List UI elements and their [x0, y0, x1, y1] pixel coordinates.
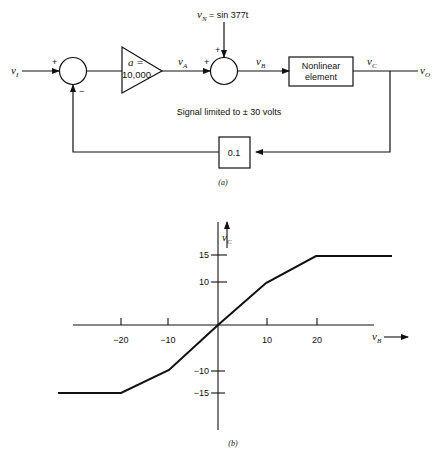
vO-label: vO: [420, 64, 430, 79]
feedback-gain-value: 0.1: [228, 148, 241, 158]
y-tick-label-m15: −15: [194, 388, 209, 398]
sum2-plus-top: +: [215, 45, 220, 55]
transfer-chart: [58, 222, 408, 430]
vC-label: vC: [367, 55, 377, 70]
caption-b: (b): [228, 439, 238, 448]
amp-gain-line2: 10,000: [122, 69, 151, 80]
vB-label: vB: [256, 55, 266, 70]
chart-labels: −20 −10 10 20 15 10 −10 −15 vC vB (b): [113, 231, 382, 448]
summing-junction-1: [60, 58, 87, 85]
sum2-plus-left: +: [204, 57, 209, 67]
block-diagram-labels: vI + − a = 10,000 vA + + vN = sin 377t v…: [11, 8, 430, 187]
y-tick-label-10: 10: [199, 277, 209, 287]
x-tick-label-10: 10: [262, 335, 272, 345]
amp-gain-line1: a =: [128, 56, 144, 68]
y-tick-label-m10: −10: [194, 366, 209, 376]
figure: vI + − a = 10,000 vA + + vN = sin 377t v…: [0, 0, 446, 466]
feedback-return-path: [73, 85, 219, 152]
vA-label: vA: [178, 55, 188, 70]
x-tick-label-m20: −20: [113, 335, 128, 345]
nonlinear-label-line1: Nonlinear: [302, 61, 341, 71]
nonlinear-label-line2: element: [305, 72, 338, 82]
x-tick-label-m10: −10: [160, 335, 175, 345]
caption-a: (a): [218, 178, 228, 187]
summing-junction-2: [211, 58, 238, 85]
x-axis-label: vB: [372, 330, 382, 345]
sum1-plus-sign: +: [52, 57, 57, 67]
noise-label: vN = sin 377t: [197, 8, 249, 23]
sum1-minus-sign: −: [79, 86, 84, 96]
x-tick-label-20: 20: [312, 335, 322, 345]
input-label: vI: [11, 64, 19, 79]
y-tick-label-15: 15: [199, 250, 209, 260]
signal-limit-note: Signal limited to ± 30 volts: [177, 107, 282, 117]
